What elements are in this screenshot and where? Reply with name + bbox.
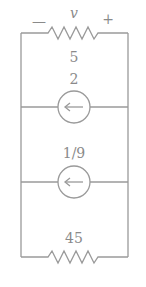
source-1-value: 2 <box>60 72 88 86</box>
voltage-label: v <box>66 6 82 20</box>
top-resistor-value: 5 <box>60 50 88 64</box>
bottom-resistor-value: 45 <box>54 231 94 245</box>
bottom-resistor <box>21 251 128 263</box>
minus-sign: — <box>32 14 46 28</box>
plus-sign: + <box>100 12 116 26</box>
source-2-value: 1/9 <box>54 146 94 160</box>
